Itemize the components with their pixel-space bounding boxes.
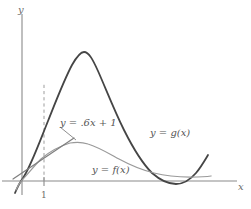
curve-f-label: y = f(x) — [92, 165, 130, 175]
x-axis-label: x — [238, 182, 244, 192]
curve-g-label: y = g(x) — [150, 128, 190, 138]
x-tick-label-1: 1 — [41, 191, 47, 200]
tangent-equation-label: y = .6x + 1 — [60, 118, 117, 128]
graph-figure: y x 1 y = .6x + 1 y = g(x) y = f(x) — [0, 0, 251, 209]
y-axis-label: y — [18, 5, 24, 15]
plot-canvas — [0, 0, 251, 209]
tangent-label-leader — [60, 127, 76, 140]
